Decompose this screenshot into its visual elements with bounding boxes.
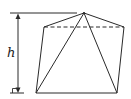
edge-apex-front-right	[84, 13, 117, 93]
height-label: h	[7, 45, 15, 60]
edge-apex-back-right	[84, 13, 124, 27]
height-arrow-head-top	[16, 14, 21, 20]
edge-right-side	[117, 27, 124, 93]
edge-apex-back-left	[44, 13, 84, 27]
apex-point	[83, 12, 85, 14]
edge-apex-front-left	[36, 13, 84, 93]
edge-left-side	[36, 27, 44, 93]
pyramid-diagram: h	[0, 0, 131, 99]
